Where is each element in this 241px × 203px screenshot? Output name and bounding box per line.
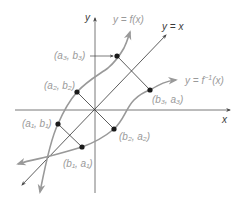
point-a1b1 xyxy=(55,121,60,126)
label-a2b2: (a₂, b₂) xyxy=(44,80,75,91)
f-curve-label: y = f(x) xyxy=(112,14,144,25)
x-axis-label: x xyxy=(221,114,228,125)
label-b3a3: (b₃, a₃) xyxy=(152,94,183,105)
point-b3a3 xyxy=(147,87,152,92)
point-a2b2 xyxy=(74,89,79,94)
y-axis-label: y xyxy=(84,12,91,23)
segment-pair-2 xyxy=(77,92,114,129)
axes xyxy=(15,18,230,193)
label-b1a1: (b₁, a₁) xyxy=(63,158,93,169)
point-b1a1 xyxy=(79,144,84,149)
label-a1b1: (a₁, b₁) xyxy=(22,118,52,129)
label-b2a2: (b₂, a₂) xyxy=(119,131,150,142)
segment-pair-3 xyxy=(117,56,150,90)
identity-line-label: y = x xyxy=(161,21,184,32)
inverse-function-diagram: y x y = f(x) y = x y = f−1(x) (a₃, b₃) (… xyxy=(0,0,241,203)
f-inverse-curve-label: y = f−1(x) xyxy=(184,74,224,86)
point-b2a2 xyxy=(111,126,116,131)
point-a3b3 xyxy=(114,53,119,58)
label-a3b3: (a₃, b₃) xyxy=(54,50,85,61)
